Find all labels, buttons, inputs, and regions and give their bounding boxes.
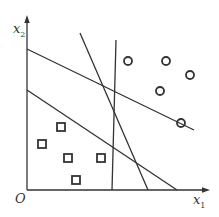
x-axis-label: x1	[193, 192, 205, 210]
separator-line-1	[27, 49, 194, 130]
class-square-points	[38, 123, 105, 184]
y-axis-arrow-icon	[24, 15, 29, 23]
class-circle-points	[124, 57, 194, 127]
y-axis-label: x2	[13, 21, 25, 39]
square-point-icon	[38, 140, 46, 148]
circle-point-icon	[162, 57, 170, 65]
origin-label: O	[15, 191, 26, 206]
separator-diagram: x2 x1 O	[0, 0, 219, 217]
square-point-icon	[72, 176, 80, 184]
square-point-icon	[97, 154, 105, 162]
square-point-icon	[57, 123, 65, 131]
separator-lines	[27, 33, 194, 190]
circle-point-icon	[186, 71, 194, 79]
axes: x2 x1 O	[13, 15, 210, 210]
x-axis-arrow-icon	[202, 187, 210, 192]
circle-point-icon	[156, 87, 164, 95]
square-point-icon	[64, 154, 72, 162]
circle-point-icon	[124, 57, 132, 65]
separator-line-2	[27, 90, 177, 190]
